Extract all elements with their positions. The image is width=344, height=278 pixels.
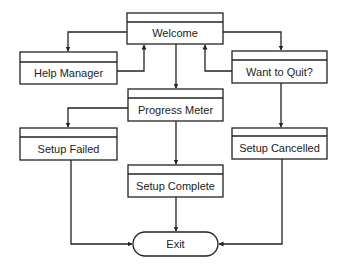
node-welcome: Welcome [127, 13, 223, 44]
node-label: Setup Complete [136, 180, 215, 192]
node-failed: Setup Failed [20, 128, 117, 160]
node-help: Help Manager [20, 52, 117, 84]
edge-quit-to-welcome [205, 45, 232, 71]
node-label: Exit [166, 238, 184, 250]
node-label: Welcome [152, 27, 198, 39]
node-label: Setup Failed [38, 143, 100, 155]
node-label: Want to Quit? [246, 66, 313, 78]
node-complete: Setup Complete [128, 165, 223, 197]
node-quit: Want to Quit? [232, 51, 327, 83]
edge-welcome-to-help [68, 32, 127, 51]
edge-failed-to-exit [71, 160, 132, 244]
node-label: Help Manager [34, 67, 103, 79]
flowchart-diagram: WelcomeHelp ManagerWant to Quit?Progress… [0, 0, 344, 278]
node-progress: Progress Meter [128, 89, 223, 121]
node-cancelled: Setup Cancelled [232, 128, 327, 159]
edge-welcome-to-quit [223, 32, 281, 50]
edge-progress-to-failed [68, 108, 128, 127]
edge-cancelled-to-exit [219, 159, 282, 244]
node-label: Setup Cancelled [239, 142, 320, 154]
node-exit: Exit [133, 232, 218, 256]
node-label: Progress Meter [138, 104, 214, 116]
edge-help-to-welcome [117, 45, 144, 71]
